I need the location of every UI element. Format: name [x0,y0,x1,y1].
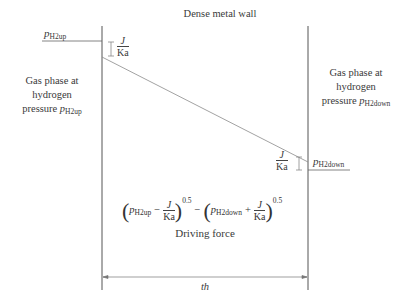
upstream-pressure-label: pH2up [44,27,66,43]
minus-sign: − [154,204,160,215]
label-line: hydrogen [310,80,401,94]
driving-force-equation: (pH2up−JKa)0.5−(pH2down+JKa)0.5 [122,196,282,224]
upstream-drop-bracket [108,42,114,56]
fraction-denominator: Ka [117,47,129,58]
downstream-pressure-label: pH2down [313,155,344,171]
pressure-subscript: H2up [135,208,152,217]
downstream-drop-fraction: JKa [276,149,288,172]
exponent: 0.5 [273,196,282,205]
fraction-numerator: J [117,35,129,47]
open-paren: ( [203,198,210,223]
downstream-drop-bracket [296,157,302,170]
driving-force-label: Driving force [155,227,255,240]
fraction-denominator: Ka [254,211,266,222]
fraction-denominator: Ka [276,161,288,172]
pressure-subscript: H2down [216,208,242,217]
close-paren: ) [265,198,272,223]
diagram-canvas [0,0,401,304]
label-line: Gas phase at [310,66,401,80]
minus-sign: − [195,204,201,215]
plus-sign: + [245,204,251,215]
concentration-gradient-line [102,57,308,162]
label-line: pressure [22,103,60,114]
upstream-drop-fraction: JKa [117,35,129,58]
label-line: pressure [322,95,360,106]
wall-title: Dense metal wall [165,7,275,20]
pressure-subscript: H2down [365,99,391,108]
label-line: Gas phase at [4,74,100,88]
thickness-label: th [190,280,220,293]
fraction-numerator: J [254,199,266,211]
right-gas-phase-label: Gas phase at hydrogen pressure pH2down [310,66,401,111]
fraction-denominator: Ka [163,211,175,222]
fraction-numerator: J [276,149,288,161]
pressure-subscript: H2down [319,160,345,169]
pressure-subscript: H2up [50,32,67,41]
label-line: hydrogen [4,88,100,102]
exponent: 0.5 [182,196,191,205]
pressure-subscript: H2up [65,107,82,116]
left-gas-phase-label: Gas phase at hydrogen pressure pH2up [4,74,100,119]
fraction-numerator: J [163,199,175,211]
thickness-dimension-arrow [103,276,307,279]
